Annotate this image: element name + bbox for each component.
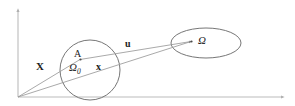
label-displacement-vector-u: u — [125, 39, 131, 49]
omega-subscript-zero: 0 — [77, 67, 81, 76]
vector-u-line — [80, 42, 191, 60]
continuum-deformation-figure: X x u A Ω0 Ω — [0, 0, 295, 106]
label-position-vector-x: x — [96, 62, 101, 72]
label-material-point-A: A — [74, 49, 81, 59]
spatial-point-marker — [190, 40, 192, 42]
omega-glyph: Ω — [69, 61, 77, 73]
figure-canvas — [0, 0, 295, 106]
label-reference-domain-omega-zero: Ω0 — [69, 62, 81, 76]
label-current-domain-omega: Ω — [198, 35, 206, 46]
label-position-vector-X: X — [36, 61, 44, 72]
